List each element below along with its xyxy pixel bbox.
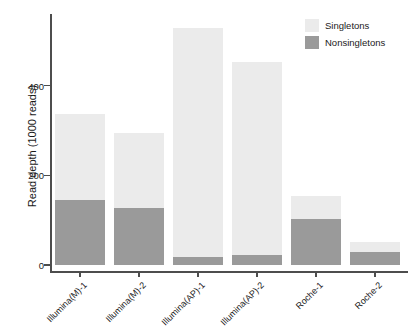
bar-chart: Read depth (1000 reads) 0200400 Illumina… — [0, 0, 411, 336]
bar-illuminam-1[interactable] — [55, 114, 105, 265]
x-tick-mark — [256, 272, 257, 277]
legend-label: Singletons — [325, 20, 369, 31]
bar-segment-nonsingletons — [232, 255, 282, 265]
x-tick-label: Illumina(M)-2 — [96, 280, 148, 332]
bar-segment-nonsingletons — [350, 252, 400, 265]
bar-segment-nonsingletons — [55, 200, 105, 265]
bar-segment-singletons — [350, 242, 400, 251]
x-tick-label: Roche-1 — [273, 280, 325, 332]
bar-segment-singletons — [55, 114, 105, 201]
x-tick-mark — [138, 272, 139, 277]
bar-roche-1[interactable] — [291, 196, 341, 265]
bar-segment-singletons — [232, 62, 282, 255]
bar-illuminaap-2[interactable] — [232, 62, 282, 265]
x-tick-mark — [197, 272, 198, 277]
x-tick-mark — [79, 272, 80, 277]
x-tick-label: Illumina(AP)-1 — [155, 280, 207, 332]
bar-segment-singletons — [173, 28, 223, 257]
x-tick-mark — [315, 272, 316, 277]
legend-item[interactable]: Singletons — [305, 18, 385, 33]
legend-swatch-icon — [305, 19, 319, 32]
legend: SingletonsNonsingletons — [305, 18, 385, 52]
x-tick-label: Illumina(M)-1 — [37, 280, 89, 332]
bar-illuminam-2[interactable] — [114, 133, 164, 265]
bar-segment-nonsingletons — [114, 208, 164, 265]
x-tick-label: Illumina(AP)-2 — [214, 280, 266, 332]
bar-roche-2[interactable] — [350, 242, 400, 265]
x-tick-mark — [374, 272, 375, 277]
bar-segment-singletons — [291, 196, 341, 219]
bar-segment-nonsingletons — [173, 257, 223, 265]
legend-item[interactable]: Nonsingletons — [305, 35, 385, 50]
bar-segment-nonsingletons — [291, 219, 341, 265]
x-tick-label: Roche-2 — [332, 280, 384, 332]
legend-label: Nonsingletons — [325, 37, 385, 48]
x-axis-line — [50, 271, 408, 273]
bar-segment-singletons — [114, 133, 164, 208]
bar-illuminaap-1[interactable] — [173, 28, 223, 265]
legend-swatch-icon — [305, 36, 319, 49]
